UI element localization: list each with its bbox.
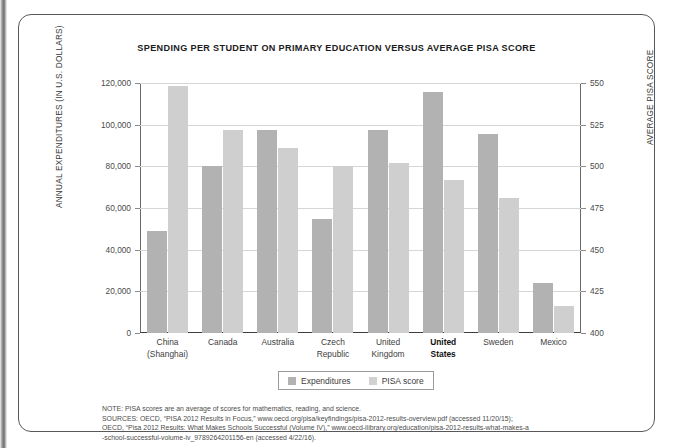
bar-expenditures: [312, 219, 332, 333]
bar-expenditures: [423, 92, 443, 333]
note-line-2: SOURCES: OECD, “PISA 2012 Results in Foc…: [102, 414, 632, 424]
y-tick-right: [581, 291, 586, 292]
x-axis-category-line: United: [361, 337, 416, 349]
bar-expenditures: [257, 130, 277, 333]
y-tick-right: [581, 250, 586, 251]
bar-expenditures: [533, 283, 553, 333]
y-tick-label-right: 525: [590, 120, 604, 130]
chart-title: SPENDING PER STUDENT ON PRIMARY EDUCATIO…: [19, 43, 654, 53]
x-axis-category-line: China: [140, 337, 195, 349]
x-axis-category-line: Australia: [250, 337, 305, 349]
y-axis-title-left: ANNUAL EXPENDITURES (IN U.S. DOLLARS): [55, 25, 64, 208]
y-tick-label-left: 60,000: [106, 203, 131, 213]
x-axis-category-label: Mexico: [526, 337, 581, 349]
note-line-3: OECD, “Pisa 2012 Results: What Makes Sch…: [102, 423, 632, 433]
x-axis-category-line: Sweden: [471, 337, 526, 349]
legend-swatch-pisa-icon: [369, 377, 377, 385]
plot-area: 020,00040,00060,00080,000100,000120,000 …: [140, 83, 581, 333]
x-axis-category-label: Canada: [195, 337, 250, 349]
legend-swatch-expenditures-icon: [288, 377, 296, 385]
bar-pisa-score: [278, 148, 298, 333]
x-axis-labels: China(Shanghai)CanadaAustraliaCzechRepub…: [140, 337, 581, 373]
y-tick-right: [581, 208, 586, 209]
y-tick-label-left: 20,000: [106, 286, 131, 296]
x-axis-category-label: UnitedStates: [416, 337, 471, 360]
bar-pisa-score: [499, 198, 519, 333]
x-axis-category-label: CzechRepublic: [305, 337, 360, 360]
y-tick-left: [135, 333, 140, 334]
y-tick-label-left: 0: [126, 328, 131, 338]
note-line-4: -school-successful-volume-iv_97892642011…: [102, 433, 632, 443]
y-tick-label-right: 450: [590, 245, 604, 255]
y-tick-label-left: 100,000: [101, 120, 131, 130]
bar-expenditures: [147, 231, 167, 333]
bar-pisa-score: [389, 163, 409, 333]
y-tick-label-left: 120,000: [101, 78, 131, 88]
page-canvas: SPENDING PER STUDENT ON PRIMARY EDUCATIO…: [0, 0, 683, 448]
figure-container: SPENDING PER STUDENT ON PRIMARY EDUCATIO…: [18, 14, 655, 432]
x-axis-category-line: Republic: [305, 349, 360, 361]
bar-pisa-score: [444, 180, 464, 333]
y-tick-label-left: 40,000: [106, 245, 131, 255]
chart-legend: Expenditures PISA score: [278, 371, 434, 390]
y-tick-right: [581, 125, 586, 126]
y-tick-label-right: 425: [590, 286, 604, 296]
legend-label-pisa: PISA score: [382, 376, 424, 386]
y-tick-right: [581, 333, 586, 334]
bars-layer: [140, 83, 581, 333]
y-tick-label-right: 500: [590, 161, 604, 171]
x-axis-category-label: Australia: [250, 337, 305, 349]
legend-label-expenditures: Expenditures: [301, 376, 351, 386]
bar-pisa-score: [168, 86, 188, 333]
y-tick-label-right: 400: [590, 328, 604, 338]
bar-expenditures: [478, 134, 498, 333]
x-axis-category-line: States: [416, 349, 471, 361]
bar-pisa-score: [223, 130, 243, 333]
x-axis-category-line: Mexico: [526, 337, 581, 349]
x-axis-category-line: Canada: [195, 337, 250, 349]
y-tick-label-left: 80,000: [106, 161, 131, 171]
y-tick-label-right: 475: [590, 203, 604, 213]
x-axis-category-label: UnitedKingdom: [361, 337, 416, 360]
x-axis-category-line: Czech: [305, 337, 360, 349]
y-axis-title-right: AVERAGE PISA SCORE: [646, 50, 655, 145]
x-axis-category-label: Sweden: [471, 337, 526, 349]
x-axis-category-line: (Shanghai): [140, 349, 195, 361]
y-tick-right: [581, 166, 586, 167]
x-axis-category-line: United: [416, 337, 471, 349]
x-axis-category-line: Kingdom: [361, 349, 416, 361]
legend-item-expenditures: Expenditures: [288, 376, 351, 386]
bar-expenditures: [368, 130, 388, 333]
legend-item-pisa: PISA score: [369, 376, 424, 386]
bar-expenditures: [202, 166, 222, 333]
y-tick-label-right: 550: [590, 78, 604, 88]
x-axis-category-label: China(Shanghai): [140, 337, 195, 360]
y-tick-right: [581, 83, 586, 84]
bar-pisa-score: [554, 306, 574, 333]
note-line-1: NOTE: PISA scores are an average of scor…: [102, 404, 632, 414]
figure-notes: NOTE: PISA scores are an average of scor…: [102, 404, 632, 442]
bar-pisa-score: [333, 166, 353, 333]
page-edge-shadow: [0, 0, 7, 448]
